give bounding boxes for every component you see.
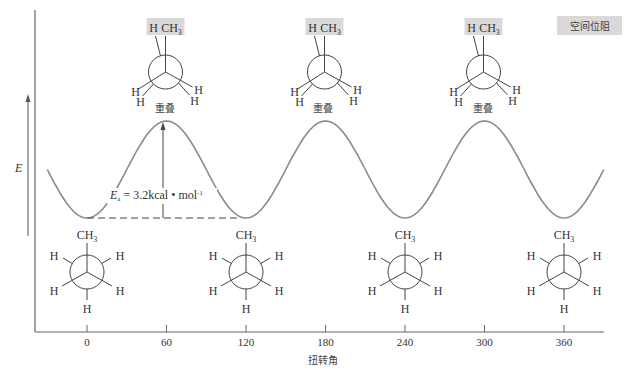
staggered-conformer-240: CH3HHHHH bbox=[368, 228, 443, 316]
substituent-h: H bbox=[242, 302, 251, 316]
bond bbox=[420, 258, 429, 264]
substituent-h: H bbox=[368, 249, 377, 263]
x-tick-label-300: 300 bbox=[476, 336, 493, 348]
substituent-h: H bbox=[401, 302, 410, 316]
x-tick-label-60: 60 bbox=[161, 336, 173, 348]
x-tick-label-360: 360 bbox=[556, 336, 573, 348]
bond bbox=[579, 258, 588, 264]
bond bbox=[381, 258, 390, 264]
substituent-ch3: CH3 bbox=[236, 228, 257, 244]
bond bbox=[540, 258, 549, 264]
substituent-h: H bbox=[190, 94, 199, 108]
bond bbox=[156, 36, 161, 56]
x-tick-label-240: 240 bbox=[397, 336, 414, 348]
substituent-h: H bbox=[209, 249, 218, 263]
bond bbox=[457, 72, 484, 89]
x-axis-ticks: 060120180240300360 bbox=[84, 325, 573, 348]
barrier-label: Ea = 3.2kcal • mol-1 bbox=[109, 188, 203, 203]
substituent-h: H bbox=[467, 21, 476, 35]
steric-hindrance-label: 空间位阻 bbox=[570, 20, 610, 32]
bond bbox=[102, 258, 111, 264]
bond bbox=[63, 258, 72, 264]
bond bbox=[315, 36, 320, 56]
bond bbox=[139, 72, 166, 89]
eclipsed-label-180: 重叠 bbox=[313, 102, 333, 114]
bond bbox=[484, 72, 511, 87]
substituent-h: H bbox=[593, 284, 602, 298]
y-axis-label: E bbox=[14, 161, 23, 175]
substituent-h: H bbox=[434, 284, 443, 298]
substituent-h: H bbox=[275, 284, 284, 298]
bond bbox=[166, 72, 193, 87]
bond bbox=[474, 36, 479, 56]
newman-projections: CH3HHHHHCH3HHHHHCH3HHHHHCH3HHHHHHCH3HHHH… bbox=[50, 18, 602, 316]
x-tick-label-120: 120 bbox=[238, 336, 255, 348]
eclipsed-label-300: 重叠 bbox=[473, 102, 493, 114]
substituent-h: H bbox=[454, 95, 463, 109]
substituent-ch3: CH3 bbox=[395, 228, 416, 244]
substituent-h: H bbox=[368, 284, 377, 298]
eclipsed-label-60: 重叠 bbox=[155, 102, 175, 114]
substituent-h: H bbox=[295, 95, 304, 109]
substituent-h: H bbox=[136, 95, 145, 109]
substituent-h: H bbox=[275, 249, 284, 263]
x-tick-label-180: 180 bbox=[317, 336, 334, 348]
substituent-h: H bbox=[527, 284, 536, 298]
bond bbox=[261, 258, 270, 264]
substituent-h: H bbox=[593, 249, 602, 263]
substituent-h: H bbox=[349, 94, 358, 108]
substituent-h: H bbox=[116, 249, 125, 263]
energy-arrow-head bbox=[26, 94, 31, 102]
substituent-h: H bbox=[149, 21, 158, 35]
substituent-h: H bbox=[527, 249, 536, 263]
eclipsed-conformer-300: HCH3HHHH bbox=[449, 18, 521, 109]
eclipsed-conformer-60: HCH3HHHH bbox=[131, 18, 203, 109]
bond bbox=[298, 72, 325, 89]
conformation-energy-diagram: E 空间位阻 Ea = 3.2kcal • mol-1 重叠 重叠 重叠 060… bbox=[0, 0, 629, 373]
substituent-h: H bbox=[560, 302, 569, 316]
substituent-h: H bbox=[50, 284, 59, 298]
substituent-h: H bbox=[508, 94, 517, 108]
substituent-h: H bbox=[83, 302, 92, 316]
staggered-conformer-360: CH3HHHHH bbox=[527, 228, 602, 316]
substituent-ch3: CH3 bbox=[554, 228, 575, 244]
staggered-conformer-0: CH3HHHHH bbox=[50, 228, 125, 316]
substituent-h: H bbox=[116, 284, 125, 298]
barrier-arrow-head bbox=[161, 122, 166, 130]
bond bbox=[325, 72, 352, 87]
x-tick-label-0: 0 bbox=[84, 336, 90, 348]
bond bbox=[222, 258, 231, 264]
substituent-h: H bbox=[434, 249, 443, 263]
substituent-h: H bbox=[209, 284, 218, 298]
substituent-ch3: CH3 bbox=[77, 228, 98, 244]
substituent-h: H bbox=[308, 21, 317, 35]
x-axis-label: 扭转角 bbox=[308, 354, 338, 366]
substituent-h: H bbox=[50, 249, 59, 263]
eclipsed-conformer-180: HCH3HHHH bbox=[290, 18, 362, 109]
staggered-conformer-120: CH3HHHHH bbox=[209, 228, 284, 316]
